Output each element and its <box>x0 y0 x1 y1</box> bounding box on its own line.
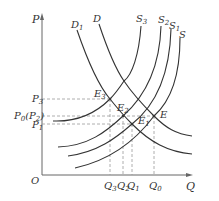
label-d1: D1 <box>70 19 84 32</box>
supply-curves <box>53 26 180 168</box>
label-e1: E1 <box>137 115 150 128</box>
label-q3: Q3 <box>104 180 117 193</box>
guide-lines <box>42 99 154 175</box>
label-e2: E2 <box>116 102 129 115</box>
supply-demand-diagram: P Q O D1 D S3 S2 S1 S E3 E2 E1 E P3 P0(P… <box>0 0 219 201</box>
label-p0-p2: P0(P2) <box>13 110 44 123</box>
label-e: E <box>159 109 168 120</box>
x-axis-label: Q <box>186 180 195 193</box>
point-e3 <box>109 98 112 101</box>
point-e <box>153 115 156 118</box>
label-d: D <box>92 13 101 24</box>
label-s: S <box>179 29 186 40</box>
origin-label: O <box>31 175 39 186</box>
x-axis-arrow-icon <box>186 173 193 177</box>
y-axis-label: P <box>31 13 40 26</box>
point-e1 <box>131 123 134 126</box>
label-q0: Q0 <box>149 180 162 193</box>
supply-curve-s2 <box>58 26 161 147</box>
y-axis-arrow-icon <box>40 13 44 20</box>
diagram-canvas: P Q O D1 D S3 S2 S1 S E3 E2 E1 E P3 P0(P… <box>0 0 219 201</box>
supply-curve-s <box>75 38 180 168</box>
label-s3: S3 <box>136 13 148 26</box>
point-e2 <box>122 115 125 118</box>
